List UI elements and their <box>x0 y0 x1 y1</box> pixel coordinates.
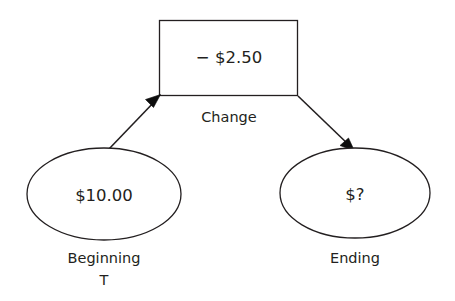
node-ending: $? Ending <box>280 148 430 266</box>
ending-caption: Ending <box>330 250 380 266</box>
arrow-beginning-to-change <box>108 95 161 151</box>
diagram-canvas: − $2.50 Change $10.00 Beginning T $? End… <box>0 0 455 301</box>
arrow-beginning-to-change-head <box>146 95 161 108</box>
beginning-caption: Beginning <box>68 250 141 266</box>
beginning-caption-line2: T <box>99 272 109 288</box>
arrow-beginning-to-change-line <box>108 99 157 150</box>
change-value: − $2.50 <box>196 48 262 67</box>
change-caption: Change <box>201 109 257 125</box>
node-change: − $2.50 Change <box>160 21 298 126</box>
beginning-value: $10.00 <box>75 186 133 205</box>
arrow-change-to-ending-line <box>298 96 350 146</box>
arrow-change-to-ending <box>298 96 355 151</box>
node-beginning: $10.00 Beginning T <box>27 148 181 288</box>
diagram-svg: − $2.50 Change $10.00 Beginning T $? End… <box>0 0 455 301</box>
ending-value: $? <box>345 185 364 204</box>
